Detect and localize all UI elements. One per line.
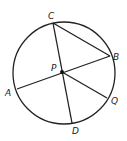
label-p: P	[51, 63, 57, 73]
label-a: A	[4, 88, 11, 98]
label-d: D	[72, 126, 79, 136]
segment-cb	[53, 23, 110, 56]
segment-pq	[62, 72, 107, 98]
label-c: C	[48, 11, 55, 21]
geometry-diagram: C B P A Q D	[0, 0, 127, 141]
label-q: Q	[111, 96, 118, 106]
label-b: B	[113, 52, 119, 62]
point-p-dot	[60, 70, 64, 74]
